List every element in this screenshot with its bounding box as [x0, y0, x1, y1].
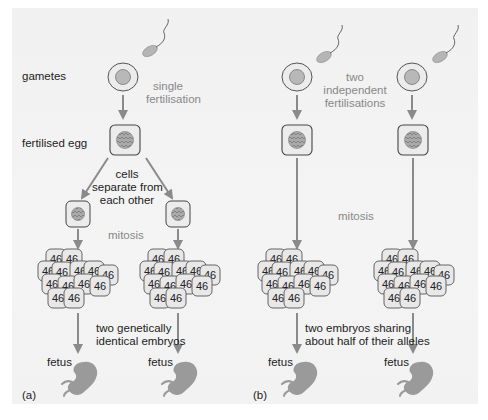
svg-text:46: 46 — [272, 292, 284, 304]
sperm-icon — [141, 19, 169, 59]
note-line: about half of their alleles — [305, 335, 405, 348]
embryo-cell: 46 — [64, 288, 84, 308]
embryo-cell: 46 — [166, 288, 186, 308]
embryo-cell: 46 — [192, 276, 212, 296]
separated-cell-icon — [166, 201, 190, 227]
sperm-icon — [315, 25, 343, 65]
note-single-fertilisation: single fertilisation — [146, 80, 190, 106]
separated-cell-icon — [66, 201, 90, 227]
note-identical-embryos: two genetically identical embryos — [96, 322, 166, 348]
note-sharing-alleles: two embryos sharing about half of their … — [305, 322, 405, 348]
egg-cell-icon — [282, 63, 312, 91]
embryo-cell-cluster: 46464646464646464646464646 — [140, 249, 220, 308]
svg-text:46: 46 — [94, 280, 106, 292]
note-two-fertilisations: two independent fertilisations — [322, 71, 388, 110]
note-cells-separate: cells separate from each other — [92, 168, 162, 207]
twin-formation-diagram: 4646464646464646464646464646464646464646… — [0, 0, 488, 420]
egg-cell-icon — [108, 63, 138, 91]
embryo-cell-cluster: 46464646464646464646464646 — [258, 249, 338, 308]
zygote-icon — [282, 125, 312, 155]
label-gametes: gametes — [22, 70, 66, 83]
label-fetus: fetus — [148, 356, 173, 369]
svg-text:46: 46 — [154, 292, 166, 304]
embryo-cell: 46 — [310, 276, 330, 296]
svg-text:46: 46 — [388, 292, 400, 304]
embryo-cell: 46 — [90, 276, 110, 296]
svg-text:46: 46 — [288, 292, 300, 304]
sperm-icon — [431, 25, 459, 65]
embryo-cell-cluster: 46464646464646464646464646 — [38, 249, 118, 308]
note-line: each other — [92, 194, 162, 207]
svg-text:46: 46 — [404, 292, 416, 304]
note-line: cells — [92, 168, 162, 181]
svg-text:46: 46 — [430, 280, 442, 292]
label-fertilised-egg: fertilised egg — [22, 137, 87, 150]
label-fetus: fetus — [268, 356, 293, 369]
svg-text:46: 46 — [196, 280, 208, 292]
embryo-cell: 46 — [284, 288, 304, 308]
label-fetus: fetus — [47, 356, 72, 369]
embryo-cell-clusters: 4646464646464646464646464646464646464646… — [38, 249, 454, 308]
panel-label-b: (b) — [253, 389, 267, 402]
svg-text:46: 46 — [68, 292, 80, 304]
embryo-cell-cluster: 46464646464646464646464646 — [374, 249, 454, 308]
egg-cell-icon — [397, 63, 427, 91]
label-mitosis-a: mitosis — [108, 229, 144, 242]
svg-text:46: 46 — [52, 292, 64, 304]
note-line: two embryos sharing — [305, 322, 405, 335]
label-mitosis-b: mitosis — [338, 210, 374, 223]
note-line: fertilisation — [146, 93, 190, 106]
note-line: identical embryos — [96, 335, 166, 348]
zygote-icon — [398, 125, 428, 155]
svg-text:46: 46 — [170, 292, 182, 304]
note-line: separate from — [92, 181, 162, 194]
label-fetus: fetus — [384, 356, 409, 369]
embryo-cell: 46 — [426, 276, 446, 296]
panel-label-a: (a) — [22, 389, 36, 402]
embryo-cell: 46 — [400, 288, 420, 308]
note-line: single — [146, 80, 190, 93]
note-line: two genetically — [96, 322, 166, 335]
note-line: independent — [322, 84, 388, 97]
note-line: fertilisations — [322, 97, 388, 110]
note-line: two — [322, 71, 388, 84]
zygote-icon — [110, 125, 140, 155]
svg-text:46: 46 — [314, 280, 326, 292]
